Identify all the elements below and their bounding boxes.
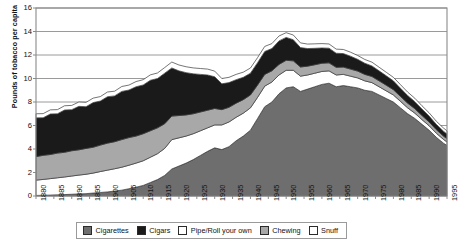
plot-area	[0, 0, 458, 247]
x-tick-label: 1965	[343, 185, 352, 201]
legend-item[interactable]: Pipe/Roll your own	[178, 226, 251, 235]
x-tick-label: 1960	[325, 185, 334, 201]
x-tick-label: 1900	[111, 185, 120, 201]
x-tick-label: 1930	[218, 185, 227, 201]
x-tick-label: 1885	[57, 185, 66, 201]
x-tick-label: 1975	[379, 185, 388, 201]
legend-swatch-icon	[83, 226, 92, 235]
chart-legend: CigarettesCigarsPipe/Roll your ownChewin…	[76, 222, 347, 239]
x-tick-label: 1935	[236, 185, 245, 201]
legend-swatch-icon	[178, 226, 187, 235]
chart-container: Pounds of tobacco per capita 02468101214…	[0, 0, 458, 247]
legend-item[interactable]: Snuff	[309, 226, 338, 235]
legend-label: Chewing	[272, 226, 300, 235]
x-tick-label: 1945	[272, 185, 281, 201]
legend-item[interactable]: Cigars	[137, 226, 171, 235]
legend-label: Cigarettes	[96, 226, 129, 235]
x-tick-label: 1980	[397, 185, 406, 201]
x-tick-label: 1910	[146, 185, 155, 201]
x-tick-label: 1895	[93, 185, 102, 201]
x-tick-label: 1940	[254, 185, 263, 201]
legend-swatch-icon	[260, 226, 269, 235]
x-tick-label: 1995	[450, 185, 458, 201]
x-tick-label: 1925	[200, 185, 209, 201]
x-tick-label: 1970	[361, 185, 370, 201]
x-tick-label: 1905	[129, 185, 138, 201]
legend-label: Pipe/Roll your own	[191, 226, 252, 235]
x-tick-label: 1920	[182, 185, 191, 201]
legend-label: Cigars	[149, 226, 170, 235]
legend-swatch-icon	[309, 226, 318, 235]
x-tick-label: 1880	[39, 185, 48, 201]
legend-item[interactable]: Chewing	[260, 226, 301, 235]
x-tick-label: 1955	[307, 185, 316, 201]
legend-item[interactable]: Cigarettes	[83, 226, 129, 235]
x-tick-label: 1985	[414, 185, 423, 201]
legend-label: Snuff	[321, 226, 338, 235]
legend-swatch-icon	[137, 226, 146, 235]
x-tick-label: 1990	[432, 185, 441, 201]
x-tick-label: 1950	[289, 185, 298, 201]
x-tick-label: 1890	[75, 185, 84, 201]
x-tick-label: 1915	[164, 185, 173, 201]
